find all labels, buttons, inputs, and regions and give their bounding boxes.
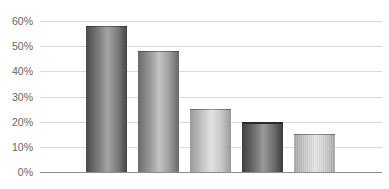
y-tick-label: 40% <box>0 65 33 77</box>
bar-2 <box>138 51 179 172</box>
bar-chart: 0%10%20%30%40%50%60% <box>0 0 389 189</box>
bar-4 <box>242 122 283 172</box>
y-tick-label: 10% <box>0 141 33 153</box>
x-axis-line <box>40 172 382 173</box>
y-tick-label: 30% <box>0 91 33 103</box>
y-tick-label: 50% <box>0 40 33 52</box>
bar-3 <box>190 109 231 172</box>
y-tick-label: 60% <box>0 15 33 27</box>
bar-5 <box>294 134 335 172</box>
y-tick-label: 20% <box>0 116 33 128</box>
gridline <box>40 21 382 22</box>
bar-1 <box>86 26 127 172</box>
y-tick-label: 0% <box>0 166 33 178</box>
